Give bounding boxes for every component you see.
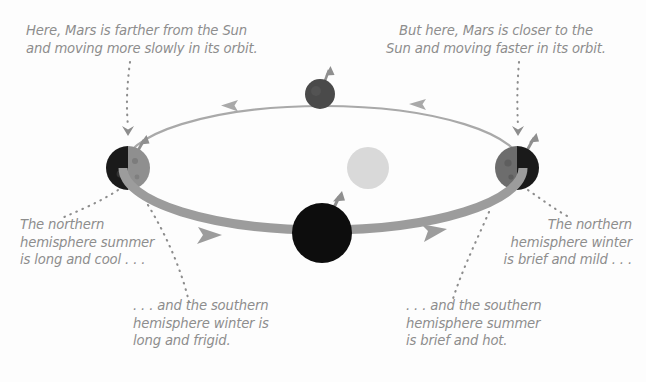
leader-top-right-arrowhead — [512, 126, 524, 136]
annotation-top-right: But here, Mars is closer to the Sun and … — [382, 22, 610, 57]
back-left-arrow-icon — [221, 100, 238, 112]
front-left-arrow-icon — [197, 227, 222, 244]
leader-top-left-arrowhead — [122, 126, 134, 136]
front-right-arrow-icon — [421, 224, 447, 242]
diagram-canvas — [0, 0, 646, 382]
back-right-arrow-icon — [409, 99, 426, 110]
mars-orbit-figure: Here, Mars is farther from the Sun and m… — [0, 0, 646, 382]
annotation-bottom-center-left: . . . and the southern hemisphere winter… — [133, 297, 269, 350]
annotation-bottom-right: The northern hemisphere winter is brief … — [452, 216, 632, 269]
mars-front — [292, 203, 352, 263]
leader-top-left — [127, 62, 130, 126]
annotation-bottom-center-right: . . . and the southern hemisphere summer… — [406, 297, 541, 350]
leader-bottom-right — [528, 190, 567, 216]
mars-back-texture — [311, 86, 321, 96]
leader-top-right — [517, 62, 519, 126]
annotation-bottom-left: The northern hemisphere summer is long a… — [20, 216, 154, 269]
annotation-top-left: Here, Mars is farther from the Sun and m… — [26, 22, 258, 57]
sun — [347, 147, 389, 189]
leader-bottom-left — [62, 190, 118, 218]
